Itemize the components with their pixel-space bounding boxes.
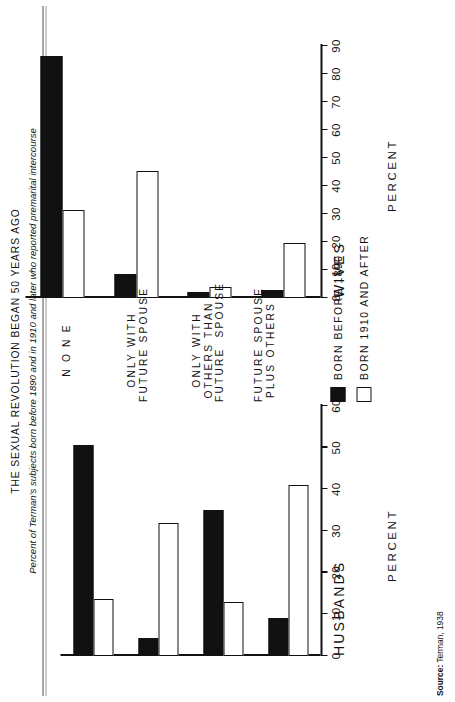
plot-area-wives: 0102030405060708090 [25, 46, 320, 298]
axis-tick [321, 241, 327, 242]
category-label: ONLY WITH OTHERS THAN FUTURE SPOUSE [190, 298, 225, 402]
bar-born-1910-and-after [62, 210, 84, 298]
legend-swatch-born-1910-and-after [356, 387, 371, 402]
figure-canvas: THE SEXUAL REVOLUTION BEGAN 50 YEARS AGO… [0, 0, 455, 702]
axis-tick-label: 20 [329, 227, 341, 257]
axis-tick [321, 213, 327, 214]
axis-tick-label: 40 [329, 171, 341, 201]
axis-tick-label: 80 [329, 59, 341, 89]
axis-tick-label: 70 [329, 87, 341, 117]
axis-tick [321, 101, 327, 102]
bar-born-before-1890 [261, 290, 283, 298]
axis-tick [321, 129, 327, 130]
legend-label-born-1910-and-after: BORN 1910 AND AFTER [358, 235, 369, 380]
legend-swatch-born-before-1890 [330, 387, 345, 402]
axis-tick-label: 60 [329, 115, 341, 145]
bar-born-1910-and-after [136, 171, 158, 298]
legend-label-born-before-1890: BORN BEFORE 1890 [332, 254, 343, 380]
figure-landscape-root: THE SEXUAL REVOLUTION BEGAN 50 YEARS AGO… [0, 0, 455, 702]
axis-tick [321, 45, 327, 46]
axis-line-percent [320, 44, 322, 298]
bar-born-1910-and-after [283, 243, 305, 298]
axis-tick-label: 50 [329, 143, 341, 173]
axis-tick [321, 157, 327, 158]
category-label: N O N E [60, 298, 72, 402]
category-label: ONLY WITH FUTURE SPOUSE [125, 298, 148, 402]
category-label: FUTURE SPOUSE PLUS OTHERS [252, 298, 275, 402]
bar-born-before-1890 [114, 274, 136, 298]
axis-tick-label: 90 [329, 31, 341, 61]
chart-legend: BORN BEFORE 1890BORN 1910 AND AFTER [330, 292, 400, 402]
axis-tick [321, 73, 327, 74]
axis-label-wives-percent: PERCENT [385, 139, 397, 212]
axis-tick [321, 269, 327, 270]
axis-tick [321, 185, 327, 186]
axis-tick-label: 30 [329, 199, 341, 229]
bar-born-before-1890 [40, 56, 62, 298]
axis-tick [321, 297, 327, 298]
